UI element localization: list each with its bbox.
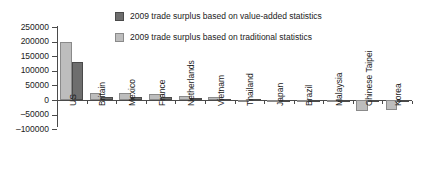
y-axis-tick: [52, 27, 57, 28]
x-axis-label: Vietnam: [217, 75, 226, 106]
y-axis-tick-label: 0: [44, 96, 49, 105]
y-axis-tick-label: 150000: [21, 52, 49, 61]
x-axis-label: Japan: [276, 83, 285, 106]
y-axis-tick: [52, 56, 57, 57]
y-axis-tick: [52, 115, 57, 116]
x-axis-tick: [175, 101, 176, 104]
x-axis-tick: [323, 101, 324, 104]
x-axis-tick: [57, 101, 58, 104]
x-axis-tick: [294, 101, 295, 104]
x-axis-label: Korea: [394, 83, 403, 106]
y-axis-tick-label: 250000: [21, 23, 49, 32]
y-axis-tick-label: –100000: [16, 125, 49, 134]
x-axis-label: Malaysia: [335, 72, 344, 106]
x-axis-tick: [412, 101, 413, 104]
y-axis-tick: [52, 42, 57, 43]
x-axis-label: Thailand: [246, 73, 255, 106]
x-axis-tick: [235, 101, 236, 104]
legend-swatch-value-added: [115, 12, 124, 21]
y-axis-tick-label: –50000: [21, 110, 49, 119]
x-axis-label: US: [69, 94, 78, 106]
y-axis-tick: [52, 71, 57, 72]
x-axis-label: Chinese Taipei: [365, 50, 374, 106]
x-axis-tick: [382, 101, 383, 104]
legend-item-value-added: 2009 trade surplus based on value-added …: [115, 8, 322, 25]
y-axis-labels: 250000200000150000100000500000–50000–100…: [0, 0, 49, 185]
y-axis-tick: [52, 100, 57, 101]
plot-area: [57, 26, 412, 101]
y-axis-tick-label: 100000: [21, 66, 49, 75]
x-axis-tick: [116, 101, 117, 104]
x-axis-tick: [205, 101, 206, 104]
bar-chart: 2009 trade surplus based on value-added …: [0, 0, 426, 185]
y-axis-tick-label: 50000: [25, 81, 49, 90]
x-axis-label: Brazil: [305, 85, 314, 106]
y-axis-tick: [52, 85, 57, 86]
x-axis-tick: [353, 101, 354, 104]
x-axis-tick: [87, 101, 88, 104]
x-axis-label: France: [158, 80, 167, 106]
y-axis-tick: [52, 129, 57, 130]
x-axis-tick: [264, 101, 265, 104]
legend-label-value-added: 2009 trade surplus based on value-added …: [130, 12, 322, 21]
bar-traditional: [60, 42, 72, 100]
x-axis-label: Britain: [98, 82, 107, 106]
y-axis-tick-label: 200000: [21, 37, 49, 46]
x-axis-label: Netherlands: [187, 60, 196, 106]
x-axis-label: Mexico: [128, 79, 137, 106]
x-axis-tick: [146, 101, 147, 104]
